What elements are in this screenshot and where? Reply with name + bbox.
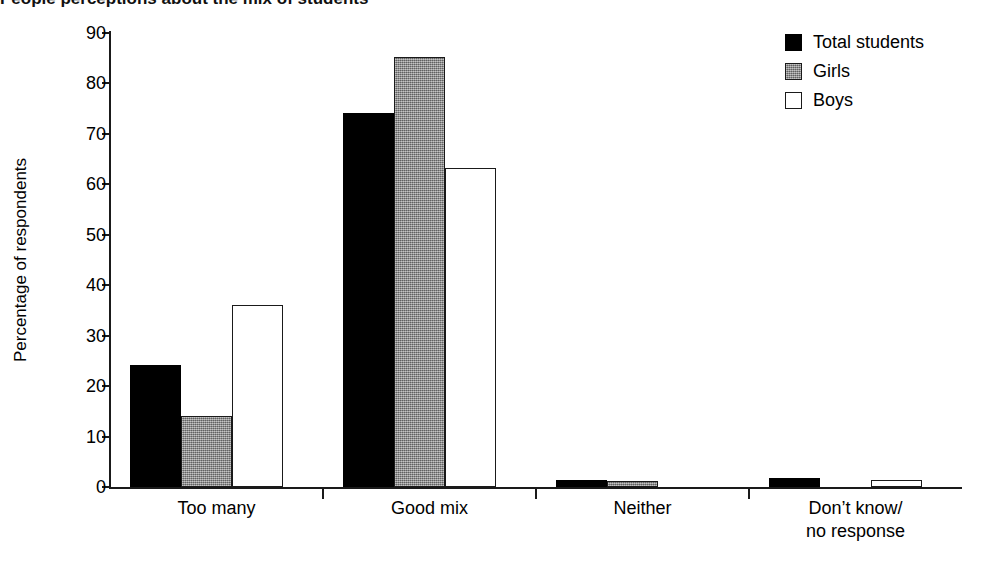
x-axis-label: Too many <box>110 497 323 520</box>
legend-swatch-gray-icon <box>785 63 802 80</box>
y-axis-tick-label: 30 <box>6 327 106 345</box>
legend-label: Girls <box>813 62 850 81</box>
y-axis-tick-label: 20 <box>6 377 106 395</box>
bar-total-students-neither <box>556 480 607 487</box>
y-axis-tick-labels: 9080706050403020100 <box>6 33 106 487</box>
chart-title: People perceptions about the mix of stud… <box>0 0 981 9</box>
y-axis-tick-label: 40 <box>6 276 106 294</box>
legend-item-girls: Girls <box>785 57 981 86</box>
bar-chart-figure: People perceptions about the mix of stud… <box>0 0 981 576</box>
bar-total-students-good-mix <box>343 113 394 487</box>
y-axis-tick-label: 0 <box>6 478 106 496</box>
legend-label: Boys <box>813 91 853 110</box>
bar-girls-neither <box>607 481 658 487</box>
legend-item-boys: Boys <box>785 86 981 115</box>
y-axis-tick-label: 60 <box>6 175 106 193</box>
y-axis-tick-label: 50 <box>6 226 106 244</box>
bar-girls-too-many <box>181 416 232 487</box>
bar-girls-good-mix <box>394 57 445 487</box>
bar-boys-good-mix <box>445 168 496 487</box>
bar-total-students-too-many <box>130 365 181 487</box>
bar-boys-too-many <box>232 305 283 487</box>
legend-swatch-black-icon <box>785 34 802 51</box>
legend-label: Total students <box>813 33 924 52</box>
legend-item-total-students: Total students <box>785 28 981 57</box>
x-axis-label: Don’t know/ no response <box>749 497 962 543</box>
y-axis-tick-label: 80 <box>6 74 106 92</box>
bar-total-students-don-t-know-no-response <box>769 478 820 487</box>
legend-swatch-white-icon <box>785 92 802 109</box>
y-axis-tick-label: 10 <box>6 428 106 446</box>
chart-legend: Total studentsGirlsBoys <box>785 28 981 115</box>
y-axis-tick-label: 70 <box>6 125 106 143</box>
x-axis-label: Neither <box>536 497 749 520</box>
y-axis-tick-label: 90 <box>6 24 106 42</box>
x-axis-label: Good mix <box>323 497 536 520</box>
bar-boys-don-t-know-no-response <box>871 480 922 487</box>
